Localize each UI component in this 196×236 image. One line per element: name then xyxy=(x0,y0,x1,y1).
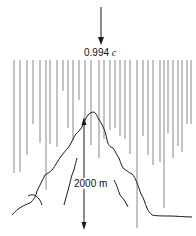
speed-value: 0.994 xyxy=(84,47,109,58)
particle-shower-lines xyxy=(14,60,191,228)
height-arrow xyxy=(82,117,87,230)
incoming-particle-arrow xyxy=(98,7,104,45)
speed-unit: c xyxy=(112,47,116,58)
speed-label: 0.994 c xyxy=(84,47,116,58)
relativity-diagram xyxy=(0,0,196,236)
height-label: 2000 m xyxy=(73,178,108,189)
mountain-icon xyxy=(12,112,192,217)
